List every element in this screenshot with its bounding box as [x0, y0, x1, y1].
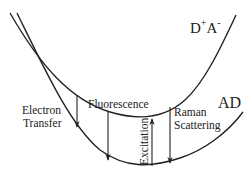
energy-diagram: D+A- AD Electron Transfer Fluorescence E… [0, 0, 251, 178]
ad-label: AD [218, 94, 241, 111]
raman-label-line1: Raman [174, 106, 207, 118]
electron-transfer-label-line1: Electron [22, 104, 61, 116]
excitation-label: Excitation [138, 117, 150, 165]
electron-transfer-label-line2: Transfer [23, 117, 62, 129]
fluorescence-label: Fluorescence [88, 98, 149, 110]
raman-label-line2: Scattering [174, 119, 221, 132]
dplus-aminus-label: D+A- [190, 17, 221, 36]
